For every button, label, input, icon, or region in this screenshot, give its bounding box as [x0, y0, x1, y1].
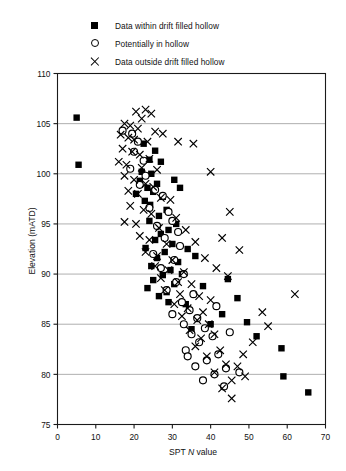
y-tick-label-110: 110 — [37, 69, 51, 79]
data-point — [152, 148, 158, 154]
x-tick-label-0: 0 — [55, 432, 60, 442]
data-point — [226, 208, 233, 215]
data-point — [121, 218, 128, 225]
data-point — [228, 395, 235, 402]
data-point — [177, 185, 183, 191]
data-point — [207, 296, 214, 303]
data-point — [188, 280, 195, 287]
y-tick-label-100: 100 — [37, 169, 51, 179]
x-axis-title-pre: SPT — [169, 447, 188, 457]
data-point — [165, 299, 171, 305]
y-tick-label-95: 95 — [41, 219, 51, 229]
data-point — [136, 232, 143, 239]
data-point — [182, 226, 189, 233]
plot-frame — [58, 74, 326, 425]
data-point — [228, 377, 235, 384]
y-tick-label-85: 85 — [41, 319, 51, 329]
data-point — [127, 202, 134, 209]
data-point — [201, 254, 208, 261]
data-point — [236, 246, 243, 253]
data-point — [136, 151, 143, 158]
scatter-chart-figure: Data within drift filled hollow Potentia… — [0, 0, 346, 471]
x-tick-label-50: 50 — [244, 432, 254, 442]
data-point — [123, 161, 130, 168]
data-point — [219, 311, 225, 317]
x-axis-title-post: value — [194, 447, 217, 457]
data-point — [159, 130, 166, 137]
data-point — [192, 363, 199, 370]
data-point — [234, 295, 240, 301]
data-point — [207, 168, 214, 175]
data-point — [171, 177, 177, 183]
y-axis-title: Elevation (mATD) — [27, 186, 37, 296]
data-point — [134, 125, 141, 132]
data-points — [73, 106, 311, 402]
data-point — [150, 277, 156, 283]
data-point — [203, 357, 210, 364]
tick-labels: 7580859095100105110010203040506070 — [37, 69, 331, 442]
data-point — [75, 162, 81, 168]
data-point — [199, 308, 206, 315]
data-point — [146, 204, 153, 211]
x-tick-label-70: 70 — [321, 432, 331, 442]
data-point — [192, 238, 199, 245]
data-point — [165, 208, 172, 215]
data-point — [146, 218, 152, 224]
data-point — [119, 145, 126, 152]
data-point — [241, 373, 248, 380]
data-point — [158, 159, 164, 165]
y-tick-label-80: 80 — [41, 370, 51, 380]
data-point — [264, 323, 271, 330]
plot-area: 7580859095100105110010203040506070 Eleva… — [0, 0, 346, 471]
data-point — [175, 228, 182, 235]
data-point — [176, 290, 183, 297]
data-point — [199, 377, 206, 384]
series-0 — [73, 114, 311, 395]
series-1 — [119, 127, 243, 390]
scatter-plot-svg: 7580859095100105110010203040506070 — [0, 0, 346, 471]
x-tick-label-10: 10 — [91, 432, 101, 442]
data-point — [157, 265, 164, 272]
data-point — [144, 285, 150, 291]
data-point — [218, 234, 225, 241]
data-point — [239, 351, 246, 358]
data-point — [127, 122, 134, 129]
data-point — [190, 140, 197, 147]
data-point — [153, 166, 160, 173]
data-point — [125, 134, 132, 141]
data-point — [174, 138, 181, 145]
data-point — [184, 246, 190, 252]
y-tick-label-90: 90 — [41, 269, 51, 279]
data-point — [165, 227, 171, 233]
data-point — [115, 158, 122, 165]
data-point — [259, 308, 266, 315]
data-point — [162, 249, 168, 255]
x-tick-label-60: 60 — [283, 432, 293, 442]
data-point — [226, 329, 233, 336]
data-point — [249, 339, 256, 346]
y-tick-label-75: 75 — [41, 420, 51, 430]
data-point — [138, 115, 145, 122]
x-tick-label-30: 30 — [168, 432, 178, 442]
data-point — [291, 290, 298, 297]
data-point — [142, 172, 149, 179]
data-point — [152, 237, 158, 243]
data-point — [192, 343, 199, 350]
x-tick-label-20: 20 — [129, 432, 139, 442]
data-point — [200, 283, 206, 289]
data-point — [169, 217, 176, 224]
data-point — [253, 333, 259, 339]
data-point — [305, 389, 311, 395]
data-point — [151, 128, 158, 135]
data-point — [142, 106, 149, 113]
data-point — [280, 373, 286, 379]
data-point — [161, 234, 168, 241]
data-point — [178, 312, 185, 319]
data-point — [244, 319, 250, 325]
data-point — [148, 110, 155, 117]
data-point — [278, 345, 284, 351]
x-axis-title: SPT N value — [0, 447, 346, 457]
data-point — [184, 353, 191, 360]
data-point — [192, 253, 198, 259]
y-tick-label-105: 105 — [37, 119, 51, 129]
